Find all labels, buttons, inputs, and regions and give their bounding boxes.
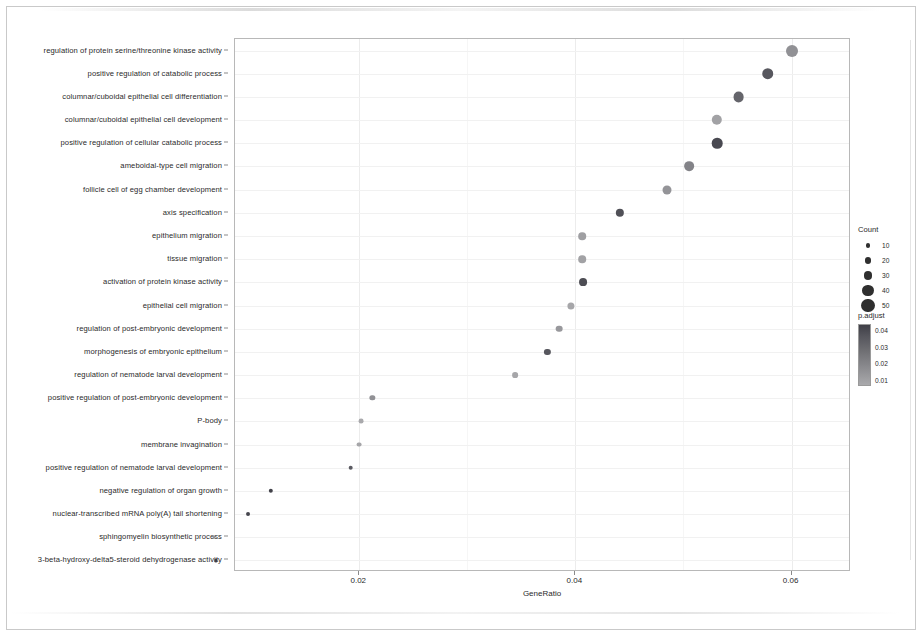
y-axis-label: positive regulation of catabolic process [88, 68, 222, 77]
y-axis-tick [224, 234, 228, 235]
y-axis-tick [224, 95, 228, 96]
legend-count-swatch [858, 271, 878, 280]
y-axis-label: positive regulation of cellular cataboli… [61, 138, 223, 147]
y-axis-label: membrane invagination [141, 439, 222, 448]
data-point [684, 162, 694, 172]
data-point [712, 138, 723, 149]
legend-count-row: 10 [858, 238, 889, 253]
x-axis-tick-label: 0.04 [567, 576, 583, 585]
y-axis-tick [224, 559, 228, 560]
gridline-y [235, 120, 849, 121]
y-axis-tick [224, 72, 228, 73]
y-axis-label: axis specification [163, 207, 222, 216]
y-axis-label: nuclear-transcribed mRNA poly(A) tail sh… [53, 509, 222, 518]
legend-count-title: Count [858, 225, 889, 234]
data-point [568, 302, 575, 309]
legend-count-dot [862, 285, 873, 296]
data-point [357, 442, 362, 447]
data-point [762, 68, 774, 80]
y-axis-label: positive regulation of post-embryonic de… [48, 393, 222, 402]
y-axis-tick [224, 397, 228, 398]
colorbar-wrap: 0.040.030.020.01 [858, 324, 909, 386]
y-axis-tick [224, 466, 228, 467]
y-axis-tick [224, 304, 228, 305]
y-axis-label: activation of protein kinase activity [103, 277, 222, 286]
y-axis-label: regulation of nematode larval developmen… [74, 370, 222, 379]
colorbar-label: 0.02 [875, 360, 888, 367]
y-axis-tick [224, 281, 228, 282]
data-point [579, 278, 587, 286]
plot-panel [234, 38, 850, 571]
y-axis: regulation of protein serine/threonine k… [10, 38, 228, 571]
y-axis-tick [224, 374, 228, 375]
gridline-y [235, 560, 849, 561]
x-axis-title: GeneRatio [234, 589, 850, 598]
y-axis-label: sphingomyelin biosynthetic process [99, 532, 222, 541]
data-point [786, 45, 798, 57]
y-axis-tick [224, 142, 228, 143]
legend-count-label: 10 [882, 242, 889, 249]
data-point [370, 396, 375, 401]
y-axis-tick [224, 513, 228, 514]
legend-count-row: 40 [858, 283, 889, 298]
y-axis-tick [224, 165, 228, 166]
y-axis-tick [224, 258, 228, 259]
legend-count: Count 1020304050 [858, 225, 889, 313]
y-axis-tick [224, 489, 228, 490]
gridline-y [235, 213, 849, 214]
gridline-y [235, 306, 849, 307]
gridline-y [235, 329, 849, 330]
gridline-y [235, 236, 849, 237]
legend-count-swatch [858, 243, 878, 247]
x-axis-tick-label: 0.06 [783, 576, 799, 585]
y-axis-label: epithelium migration [152, 230, 222, 239]
data-point [544, 349, 550, 355]
gridline-y [235, 51, 849, 52]
y-axis-tick [224, 49, 228, 50]
y-axis-label: ameboidal-type cell migration [120, 161, 222, 170]
data-point [348, 465, 353, 470]
legend-count-dot [865, 257, 871, 263]
legend-padjust-title: p.adjust [858, 311, 909, 320]
gridline-y [235, 190, 849, 191]
y-axis-label: P-body [197, 416, 222, 425]
gridline-y [235, 445, 849, 446]
data-point [556, 325, 563, 332]
data-point [213, 536, 216, 539]
gridline-y [235, 468, 849, 469]
legend-count-label: 20 [882, 257, 889, 264]
data-point [712, 115, 722, 125]
legend-area: Count 1020304050 p.adjust 0.040.030.020.… [856, 225, 918, 405]
gridline-y [235, 282, 849, 283]
colorbar-label: 0.04 [875, 327, 888, 334]
y-axis-tick [224, 350, 228, 351]
gridline-y [235, 166, 849, 167]
legend-count-row: 20 [858, 253, 889, 268]
y-axis-tick [224, 443, 228, 444]
gridline-y [235, 352, 849, 353]
y-axis-label: morphogenesis of embryonic epithelium [84, 346, 222, 355]
x-axis-tick [574, 571, 575, 575]
data-point [359, 419, 364, 424]
gridline-y [235, 514, 849, 515]
y-axis-tick [224, 327, 228, 328]
x-axis-tick [358, 571, 359, 575]
legend-count-label: 40 [882, 287, 889, 294]
scan-artifact-bottom [10, 612, 900, 614]
gridline-y [235, 74, 849, 75]
y-axis-label: negative regulation of organ growth [99, 485, 222, 494]
y-axis-label: 3-beta-hydroxy-delta5-steroid dehydrogen… [38, 555, 222, 564]
gridline-y [235, 421, 849, 422]
gridline-y [235, 375, 849, 376]
data-point [663, 185, 672, 194]
gridline-y [235, 143, 849, 144]
colorbar-gradient [858, 324, 871, 386]
y-axis-label: tissue migration [167, 254, 222, 263]
y-axis-tick [224, 211, 228, 212]
legend-count-dot [866, 243, 870, 247]
legend-count-dot [864, 271, 873, 280]
y-axis-label: columnar/cuboidal epithelial cell differ… [62, 91, 222, 100]
y-axis-label: positive regulation of nematode larval d… [46, 462, 222, 471]
data-point [512, 372, 518, 378]
colorbar-label: 0.03 [875, 343, 888, 350]
